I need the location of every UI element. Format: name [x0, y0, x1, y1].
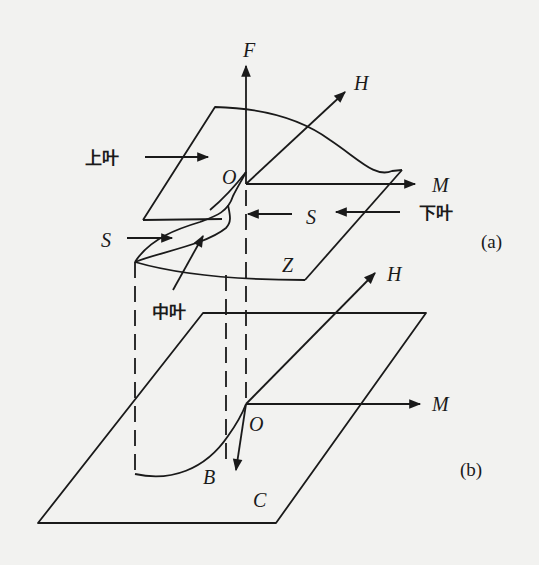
- control-plane-c: [38, 313, 426, 523]
- f-axis-label: F: [243, 40, 255, 60]
- panel-label-b: (b): [460, 460, 482, 480]
- lower-leaf-label: 下叶: [419, 204, 453, 222]
- lower-leaf-surface: [135, 170, 402, 280]
- upper-leaf-surface: [143, 107, 402, 220]
- bifurcation-label-b: B: [203, 467, 215, 487]
- m-axis-label-a: M: [432, 175, 449, 195]
- h-axis-label-b: H: [387, 264, 401, 284]
- sheet-label-left: S: [101, 230, 111, 250]
- m-axis-label-b: M: [432, 394, 449, 414]
- middle-leaf-arrow: [173, 236, 203, 290]
- h-axis-b: [246, 273, 375, 404]
- upper-leaf-label: 上叶: [85, 149, 119, 167]
- origin-label-a: O: [222, 167, 236, 187]
- surface-label-z: Z: [282, 255, 293, 275]
- panel-label-a: (a): [481, 232, 502, 252]
- middle-leaf-label: 中叶: [152, 303, 186, 321]
- h-axis-a: [246, 92, 345, 184]
- sheet-label-right: S: [306, 207, 316, 227]
- origin-label-b: O: [249, 414, 263, 434]
- control-plane-label-c: C: [253, 490, 266, 510]
- cusp-catastrophe-diagram: [0, 0, 539, 565]
- h-axis-label-a: H: [354, 73, 368, 93]
- bifurcation-curve-b: [135, 404, 246, 476]
